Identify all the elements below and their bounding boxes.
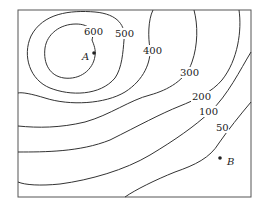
point-b-marker bbox=[218, 156, 222, 160]
contour-100 bbox=[18, 52, 251, 185]
contour-label-500: 500 bbox=[115, 28, 134, 39]
contour-label-400: 400 bbox=[143, 45, 162, 56]
point-a-label: A bbox=[81, 51, 89, 62]
contour-300 bbox=[18, 10, 197, 127]
contour-map: 600 500 400 300 200 100 50 A B bbox=[0, 0, 265, 210]
contour-label-300: 300 bbox=[180, 67, 199, 78]
contour-50 bbox=[125, 102, 251, 197]
point-a-marker bbox=[92, 51, 96, 55]
contour-label-100: 100 bbox=[199, 106, 218, 117]
contour-label-600: 600 bbox=[84, 26, 103, 37]
contour-label-50: 50 bbox=[216, 122, 229, 133]
point-b-label: B bbox=[226, 156, 234, 167]
contour-label-200: 200 bbox=[192, 91, 211, 102]
map-frame bbox=[18, 10, 251, 197]
